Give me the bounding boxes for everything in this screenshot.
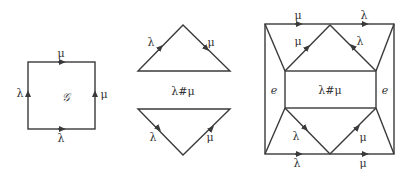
surface-top-right-label: λ [361,9,368,22]
edge-line [376,108,394,154]
surface-right-label: e [382,84,389,97]
edge-line [330,108,376,154]
edge-line [265,24,285,71]
square-bottom-label: λ [58,132,65,145]
square-figure: μ λ μ λ 𝒢 [17,47,108,145]
edge-line [376,24,394,71]
surface-bottom-left-label: λ [294,157,301,170]
square-top-label: μ [57,47,64,60]
triangles-figure: λ μ λ#μ λ μ [138,25,230,155]
surface-top-left-label: μ [294,9,301,22]
edge-line [330,25,376,71]
square-left-label: λ [17,87,24,100]
connected-sum-label: λ#μ [171,85,194,98]
surface-upper-right-diag-label: λ [357,35,364,48]
top-triangle-right-label: μ [207,36,214,49]
top-triangle-left-label: λ [148,36,155,49]
surface-center-label: λ#μ [318,84,341,97]
surface-upper-left-diag-label: μ [294,35,301,48]
diagram-canvas: μ λ μ λ 𝒢 λ μ λ#μ λ μ [0,0,413,179]
surface-figure: μ λ μ λ λ#μ e e λ μ λ μ [265,9,394,170]
square-right-label: μ [100,88,107,101]
surface-lower-right-diag-label: μ [359,131,366,144]
surface-left-label: e [271,84,278,97]
surface-bottom-right-label: μ [359,157,366,170]
square-center-label: 𝒢 [62,91,72,104]
surface-lower-left-diag-label: λ [293,130,300,143]
edge-line [265,108,285,154]
bottom-triangle-left-label: λ [150,131,157,144]
bottom-triangle-right-label: μ [206,131,213,144]
